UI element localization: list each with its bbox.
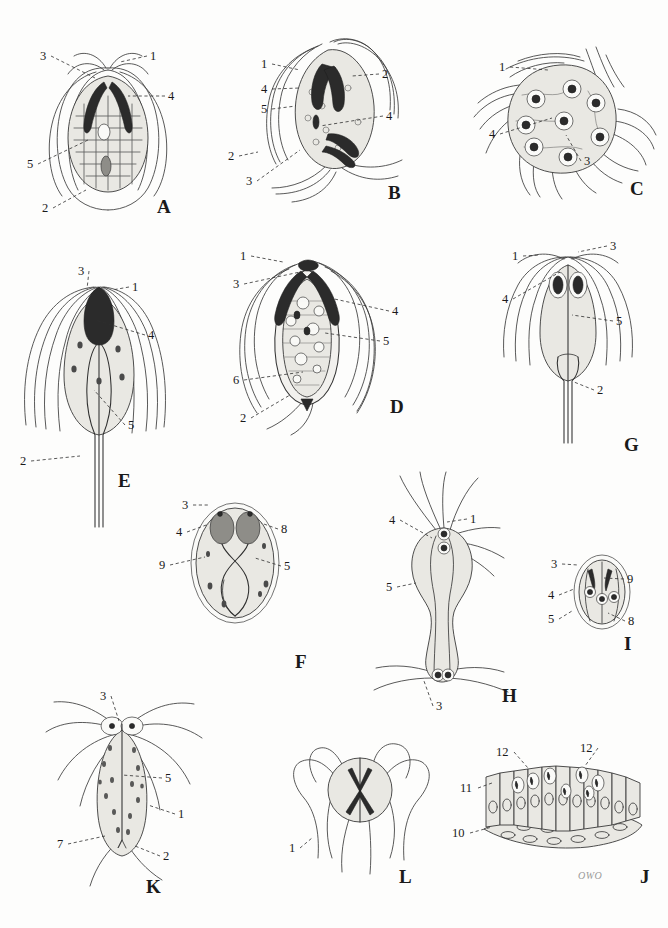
panel-G — [470, 235, 668, 445]
illustration-plate: 3145212454231431345623145234895134524153… — [0, 0, 668, 928]
label-number-F-4: 4 — [176, 526, 182, 539]
label-number-A-4: 4 — [168, 90, 174, 103]
panel-letter-E: E — [118, 470, 131, 492]
label-number-J-12: 12 — [496, 746, 509, 759]
panel-K — [30, 690, 230, 890]
label-number-K-3: 3 — [100, 690, 106, 703]
panel-L — [290, 740, 450, 880]
panel-H — [370, 470, 540, 700]
label-number-A-5: 5 — [27, 158, 33, 171]
panel-A — [0, 20, 220, 220]
label-number-F-3: 3 — [182, 499, 188, 512]
label-number-K-5: 5 — [165, 772, 171, 785]
panel-letter-G: G — [624, 434, 639, 456]
panel-letter-I: I — [624, 633, 631, 655]
panel-E — [10, 245, 190, 535]
label-number-H-5: 5 — [386, 581, 392, 594]
label-number-F-9: 9 — [159, 559, 165, 572]
label-number-B-5: 5 — [261, 103, 267, 116]
label-number-L-1: 1 — [289, 842, 295, 855]
label-number-E-3: 3 — [78, 265, 84, 278]
label-number-K-1: 1 — [178, 808, 184, 821]
label-number-B-4: 4 — [261, 83, 267, 96]
label-number-D-5: 5 — [383, 335, 389, 348]
label-number-G-2: 2 — [597, 384, 603, 397]
label-number-F-8: 8 — [281, 523, 287, 536]
label-number-C-1: 1 — [499, 61, 505, 74]
label-number-B-1: 1 — [261, 58, 267, 71]
label-number-A-3: 3 — [40, 50, 46, 63]
panel-letter-F: F — [295, 651, 307, 673]
panel-letter-D: D — [390, 396, 404, 418]
label-number-D-4: 4 — [392, 305, 398, 318]
artist-signature: OWO — [578, 870, 602, 881]
label-number-I-8: 8 — [628, 615, 634, 628]
panel-J — [478, 755, 648, 865]
label-number-B-2: 2 — [382, 68, 388, 81]
panel-letter-A: A — [157, 196, 171, 218]
label-number-F-5: 5 — [284, 560, 290, 573]
label-number-G-5: 5 — [616, 315, 622, 328]
label-number-I-5: 5 — [548, 613, 554, 626]
label-number-B-2: 2 — [228, 150, 234, 163]
label-number-K-2: 2 — [163, 850, 169, 863]
label-number-K-7: 7 — [57, 838, 63, 851]
panel-F — [180, 490, 290, 640]
label-number-A-2: 2 — [42, 202, 48, 215]
label-number-E-5: 5 — [128, 419, 134, 432]
label-number-G-3: 3 — [610, 240, 616, 253]
label-number-G-4: 4 — [502, 293, 508, 306]
panel-letter-J: J — [640, 866, 650, 888]
panel-letter-C: C — [630, 178, 644, 200]
label-number-J-10: 10 — [452, 827, 465, 840]
label-number-E-2: 2 — [20, 455, 26, 468]
panel-letter-L: L — [399, 866, 412, 888]
label-number-C-3: 3 — [584, 155, 590, 168]
label-number-D-6: 6 — [233, 374, 239, 387]
panel-letter-B: B — [388, 182, 401, 204]
label-number-C-4: 4 — [489, 128, 495, 141]
label-number-I-3: 3 — [551, 558, 557, 571]
label-number-J-12: 12 — [580, 742, 593, 755]
panel-letter-H: H — [502, 685, 517, 707]
label-number-H-4: 4 — [389, 514, 395, 527]
label-number-I-9: 9 — [627, 573, 633, 586]
panel-letter-K: K — [146, 876, 161, 898]
label-number-A-1: 1 — [150, 50, 156, 63]
label-number-E-4: 4 — [148, 329, 154, 342]
label-number-I-4: 4 — [548, 589, 554, 602]
label-number-H-1: 1 — [470, 513, 476, 526]
label-number-D-3: 3 — [233, 278, 239, 291]
label-number-B-4: 4 — [386, 110, 392, 123]
label-number-H-3: 3 — [436, 700, 442, 713]
label-number-D-2: 2 — [240, 412, 246, 425]
label-number-D-1: 1 — [240, 250, 246, 263]
label-number-J-11: 11 — [460, 782, 472, 795]
label-number-E-1: 1 — [132, 281, 138, 294]
label-number-B-3: 3 — [246, 175, 252, 188]
label-number-G-1: 1 — [512, 250, 518, 263]
